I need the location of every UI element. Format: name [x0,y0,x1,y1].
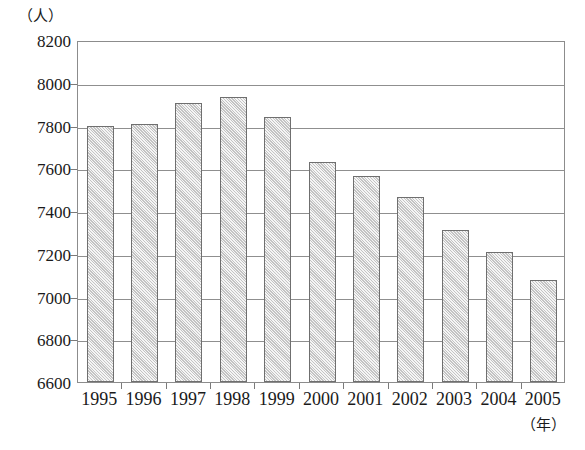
x-axis-tick-mark [210,383,211,389]
y-axis-tick-mark [70,255,77,256]
bar [220,97,247,382]
y-axis-tick-mark [70,127,77,128]
y-axis-tick-label: 8000 [37,76,71,93]
y-axis-tick-mark [70,340,77,341]
y-axis-tick-mark [70,84,77,85]
bar [264,117,291,382]
y-axis-tick-mark [70,169,77,170]
y-axis-tick-label: 7800 [37,119,71,136]
y-axis-tick-label: 7400 [37,204,71,221]
bar [353,176,380,382]
plot-area [77,41,565,383]
y-axis-unit-label: （人） [18,4,63,25]
x-axis-tick-mark [476,383,477,389]
y-axis-tick-label: 7000 [37,290,71,307]
x-axis-tick-label: 2005 [515,390,571,408]
bar [309,162,336,382]
bar [175,103,202,382]
bar-chart-figure: （人） 820080007800760074007200700068006600… [0,0,585,450]
x-axis-tick-mark [343,383,344,389]
bar [131,124,158,382]
figure-caption [6,441,566,450]
x-axis-tick-mark [521,383,522,389]
x-axis-tick-mark [432,383,433,389]
y-axis-tick-label: 7600 [37,161,71,178]
y-axis-tick-mark [70,298,77,299]
x-axis-tick-mark [166,383,167,389]
x-axis-tick-mark [388,383,389,389]
y-axis-tick-label: 7200 [37,247,71,264]
y-axis-tick-label: 6800 [37,332,71,349]
x-axis-unit-label: （年） [521,413,566,434]
bar [397,197,424,382]
y-axis-tick-mark [70,212,77,213]
y-axis-tick-label: 8200 [37,33,71,50]
gridline [78,85,564,86]
bar [530,280,557,382]
bar [442,230,469,382]
x-axis-tick-mark [121,383,122,389]
x-axis-tick-mark [254,383,255,389]
y-axis-tick-label: 6600 [37,375,71,392]
bar [486,252,513,382]
x-axis-tick-mark [299,383,300,389]
bar [87,126,114,383]
